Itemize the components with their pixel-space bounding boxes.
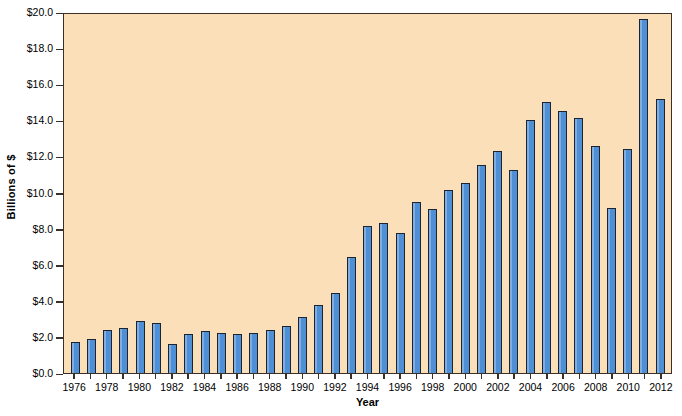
bar[interactable] bbox=[103, 330, 112, 373]
bar[interactable] bbox=[152, 323, 161, 373]
y-tick-mark bbox=[56, 265, 63, 267]
y-tick-label: $4.0 bbox=[33, 295, 53, 307]
bar-slot bbox=[587, 14, 603, 373]
bar-slot bbox=[603, 14, 619, 373]
y-tick-mark bbox=[56, 337, 63, 339]
bar[interactable] bbox=[87, 339, 96, 373]
bar-slot bbox=[636, 14, 652, 373]
x-tick-mark bbox=[269, 374, 271, 379]
bar-chart: Billions of $ $20.0$18.0$16.0$14.0$12.0$… bbox=[0, 0, 682, 416]
bar[interactable] bbox=[607, 208, 616, 373]
x-axis-title: Year bbox=[63, 396, 672, 408]
x-tick-label: 1980 bbox=[128, 381, 151, 393]
plot-area bbox=[63, 13, 672, 374]
bar[interactable] bbox=[347, 257, 356, 373]
bar[interactable] bbox=[444, 190, 453, 373]
x-tick-mark bbox=[302, 374, 304, 379]
x-tick-mark bbox=[399, 374, 401, 379]
bar[interactable] bbox=[477, 165, 486, 373]
bar[interactable] bbox=[266, 330, 275, 373]
bar[interactable] bbox=[233, 334, 242, 373]
x-tick-mark bbox=[546, 374, 548, 379]
bar[interactable] bbox=[542, 102, 551, 373]
bar-slot bbox=[246, 14, 262, 373]
bar-slot bbox=[262, 14, 278, 373]
bar-slot bbox=[327, 14, 343, 373]
x-tick-mark bbox=[579, 374, 581, 379]
x-tick-label: 2010 bbox=[617, 381, 640, 393]
bar-slot bbox=[213, 14, 229, 373]
x-tick-label: 2004 bbox=[519, 381, 542, 393]
bar[interactable] bbox=[591, 146, 600, 373]
bar-slot bbox=[506, 14, 522, 373]
bar-slot bbox=[132, 14, 148, 373]
x-tick-mark bbox=[465, 374, 467, 379]
bar[interactable] bbox=[461, 183, 470, 373]
y-tick-label: $12.0 bbox=[27, 150, 53, 162]
y-tick-mark bbox=[56, 374, 63, 376]
bar[interactable] bbox=[298, 317, 307, 373]
bar-slot bbox=[116, 14, 132, 373]
bar[interactable] bbox=[412, 202, 421, 373]
bar[interactable] bbox=[249, 333, 258, 373]
bar[interactable] bbox=[379, 223, 388, 373]
x-tick-mark bbox=[220, 374, 222, 379]
x-tick-mark bbox=[318, 374, 320, 379]
bar[interactable] bbox=[168, 344, 177, 373]
bar[interactable] bbox=[396, 233, 405, 373]
bar-slot bbox=[376, 14, 392, 373]
bar-slot bbox=[360, 14, 376, 373]
bar-slot bbox=[571, 14, 587, 373]
bar[interactable] bbox=[71, 342, 80, 373]
y-tick-mark bbox=[56, 13, 63, 15]
bar[interactable] bbox=[656, 99, 665, 373]
bar-slot bbox=[311, 14, 327, 373]
bar-slot bbox=[457, 14, 473, 373]
bar[interactable] bbox=[493, 151, 502, 373]
x-tick-mark bbox=[253, 374, 255, 379]
x-tick-label: 1986 bbox=[225, 381, 248, 393]
bar[interactable] bbox=[509, 170, 518, 373]
bar[interactable] bbox=[331, 293, 340, 373]
y-tick-label: $8.0 bbox=[33, 223, 53, 235]
bar-series bbox=[64, 14, 671, 373]
bar-slot bbox=[343, 14, 359, 373]
bar-slot bbox=[148, 14, 164, 373]
y-tick-label: $10.0 bbox=[27, 187, 53, 199]
bar[interactable] bbox=[217, 333, 226, 373]
y-tick-label: $20.0 bbox=[27, 6, 53, 18]
bar[interactable] bbox=[136, 321, 145, 373]
y-tick-label: $0.0 bbox=[33, 367, 53, 379]
x-tick-mark bbox=[448, 374, 450, 379]
x-tick-mark bbox=[644, 374, 646, 379]
bar[interactable] bbox=[119, 328, 128, 373]
bar[interactable] bbox=[184, 334, 193, 373]
y-tick-mark bbox=[56, 85, 63, 87]
x-tick-mark bbox=[236, 374, 238, 379]
bar-slot bbox=[538, 14, 554, 373]
bar-slot bbox=[392, 14, 408, 373]
x-tick-label: 2000 bbox=[454, 381, 477, 393]
x-tick-mark bbox=[73, 374, 75, 379]
bar[interactable] bbox=[363, 226, 372, 373]
bar[interactable] bbox=[314, 305, 323, 373]
bar[interactable] bbox=[623, 149, 632, 373]
bar[interactable] bbox=[201, 331, 210, 373]
bar[interactable] bbox=[282, 326, 291, 373]
x-tick-mark bbox=[106, 374, 108, 379]
y-tick-mark bbox=[56, 157, 63, 159]
x-tick-mark bbox=[497, 374, 499, 379]
bar[interactable] bbox=[526, 120, 535, 373]
bar-slot bbox=[620, 14, 636, 373]
x-tick-mark bbox=[481, 374, 483, 379]
x-tick-label: 1976 bbox=[62, 381, 85, 393]
x-tick-label: 2002 bbox=[486, 381, 509, 393]
bar[interactable] bbox=[428, 209, 437, 373]
bar[interactable] bbox=[558, 111, 567, 373]
bar[interactable] bbox=[574, 118, 583, 373]
x-tick-mark bbox=[90, 374, 92, 379]
x-tick-label: 1978 bbox=[95, 381, 118, 393]
x-tick-label: 1998 bbox=[421, 381, 444, 393]
bar[interactable] bbox=[639, 19, 648, 373]
y-axis: $20.0$18.0$16.0$14.0$12.0$10.0$8.0$6.0$4… bbox=[0, 0, 63, 416]
